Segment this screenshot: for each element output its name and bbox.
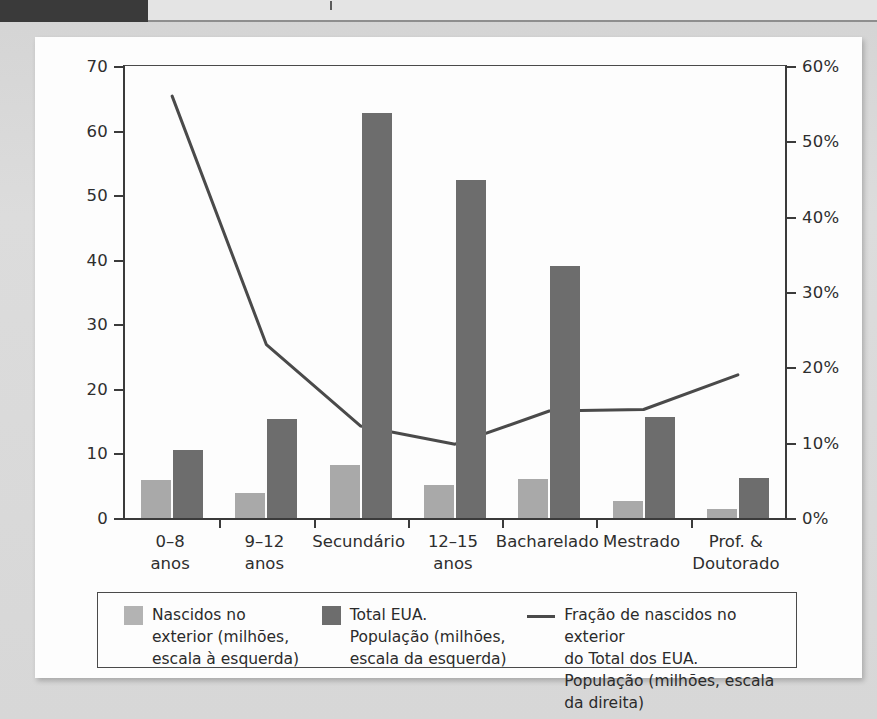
- x-axis-category-label: 12–15 anos: [428, 531, 478, 576]
- y-axis-left-tick: [114, 453, 123, 455]
- y-axis-left-tick: [114, 131, 123, 133]
- legend-label-foreign-born: Nascidos no exterior (milhões, escala à …: [152, 604, 299, 670]
- bar-total-us-population: [267, 419, 297, 518]
- x-axis-category-label: 0–8 anos: [151, 531, 190, 576]
- bar-foreign-born: [707, 509, 737, 518]
- y-axis-right-tick: [787, 518, 796, 520]
- bar-total-us-population: [550, 266, 580, 518]
- x-axis-tick: [596, 518, 598, 528]
- y-axis-right-label: 30%: [802, 283, 839, 302]
- y-axis-right-label: 10%: [802, 433, 839, 452]
- x-axis-tick: [219, 518, 221, 528]
- chart-legend: Nascidos no exterior (milhões, escala à …: [97, 592, 797, 668]
- bar-foreign-born: [330, 465, 360, 518]
- page-header-dark-band: [0, 0, 148, 22]
- legend-item-total-us: Total EUA. População (milhões, escala da…: [322, 604, 518, 670]
- chart-card: 0102030405060700%10%20%30%40%50%60% 0–8 …: [35, 37, 862, 678]
- x-axis-tick: [408, 518, 410, 528]
- y-axis-left-label: 0: [97, 509, 108, 528]
- scanned-page-background: 0102030405060700%10%20%30%40%50%60% 0–8 …: [0, 0, 877, 719]
- x-axis-category-label: Secundário: [312, 531, 405, 553]
- x-axis-tick: [691, 518, 693, 528]
- y-axis-left-label: 70: [87, 57, 108, 76]
- plot-area: 0102030405060700%10%20%30%40%50%60%: [123, 65, 787, 520]
- y-axis-right-label: 0%: [802, 509, 829, 528]
- y-axis-left-tick: [114, 324, 123, 326]
- bar-foreign-born: [235, 493, 265, 518]
- y-axis-right-label: 40%: [802, 207, 839, 226]
- x-axis-category-label: Mestrado: [603, 531, 680, 553]
- line-series-path: [172, 96, 738, 444]
- x-axis-category-label: Prof. & Doutorado: [692, 531, 779, 576]
- bar-foreign-born: [518, 479, 548, 518]
- x-axis-category-label: Bacharelado: [496, 531, 599, 553]
- legend-label-total-us: Total EUA. População (milhões, escala da…: [350, 604, 507, 670]
- y-axis-left-tick: [114, 195, 123, 197]
- bar-foreign-born: [141, 480, 171, 518]
- bar-foreign-born: [613, 501, 643, 518]
- y-axis-right-tick: [787, 443, 796, 445]
- y-axis-right-label: 50%: [802, 132, 839, 151]
- y-axis-left-tick: [114, 66, 123, 68]
- y-axis-left-tick: [114, 260, 123, 262]
- page-header-strip: [148, 0, 877, 22]
- line-series-overlay: [125, 66, 785, 518]
- legend-swatch-light: [124, 606, 143, 625]
- legend-item-fraction-line: Fração de nascidos no exterior do Total …: [527, 604, 796, 714]
- y-axis-left-label: 30: [87, 315, 108, 334]
- legend-line-sample-icon: [527, 606, 555, 625]
- x-axis-category-label: 9–12 anos: [245, 531, 285, 576]
- y-axis-left-label: 10: [87, 444, 108, 463]
- legend-label-fraction: Fração de nascidos no exterior do Total …: [564, 604, 796, 714]
- bar-total-us-population: [456, 180, 486, 518]
- y-axis-right-tick: [787, 367, 796, 369]
- legend-swatch-dark: [322, 606, 341, 625]
- y-axis-left-tick: [114, 518, 123, 520]
- y-axis-left-label: 20: [87, 379, 108, 398]
- y-axis-left-label: 50: [87, 186, 108, 205]
- y-axis-right-label: 20%: [802, 358, 839, 377]
- bar-total-us-population: [362, 113, 392, 518]
- x-axis-tick: [502, 518, 504, 528]
- legend-item-foreign-born: Nascidos no exterior (milhões, escala à …: [124, 604, 316, 670]
- y-axis-left-tick: [114, 389, 123, 391]
- bar-total-us-population: [739, 478, 769, 518]
- page-header-tick-mark: [330, 1, 332, 10]
- y-axis-right-tick: [787, 66, 796, 68]
- combo-chart: 0102030405060700%10%20%30%40%50%60% 0–8 …: [35, 37, 862, 597]
- bar-total-us-population: [645, 417, 675, 518]
- y-axis-right-tick: [787, 141, 796, 143]
- x-axis-tick: [314, 518, 316, 528]
- y-axis-left-label: 40: [87, 250, 108, 269]
- bar-total-us-population: [173, 450, 203, 518]
- y-axis-right-tick: [787, 292, 796, 294]
- bar-foreign-born: [424, 485, 454, 518]
- y-axis-right-tick: [787, 217, 796, 219]
- y-axis-right-label: 60%: [802, 57, 839, 76]
- y-axis-left-label: 60: [87, 121, 108, 140]
